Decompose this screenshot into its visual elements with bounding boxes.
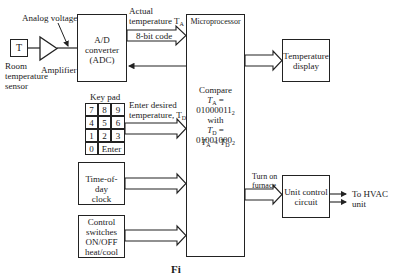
temperature-display-box: Temperature display <box>282 39 330 82</box>
keypad-title: Key pad <box>90 92 120 102</box>
control-switches-box: Control switches ON/OFF heat/cool <box>78 215 125 258</box>
amplifier-label: Amplifier <box>41 65 77 75</box>
control-switches-label: Control switches ON/OFF heat/cool <box>79 217 124 257</box>
key-6[interactable]: 6 <box>111 116 125 129</box>
key-0[interactable]: 0 <box>85 142 98 155</box>
compare-result: TA < TD <box>187 137 244 147</box>
to-hvac-label: To HVAC unit <box>352 189 388 209</box>
temperature-display-label: Temperature display <box>283 51 329 71</box>
amplifier-triangle <box>40 37 57 60</box>
key-4[interactable]: 4 <box>85 116 98 129</box>
key-5[interactable]: 5 <box>98 116 111 129</box>
key-8[interactable]: 8 <box>98 103 111 116</box>
key-9[interactable]: 9 <box>111 103 125 116</box>
time-of-day-clock-box: Time-of-day clock <box>78 162 125 205</box>
actual-temperature-label: Actual temperature TA <box>129 6 184 26</box>
key-2[interactable]: 2 <box>98 129 111 142</box>
adc-box: A/D converter (ADC) <box>77 14 127 82</box>
bus-8bit-label: 8-bit code <box>136 31 172 41</box>
unit-control-label: Unit control circuit <box>283 187 329 207</box>
microprocessor-title: Microprocessor <box>187 17 244 27</box>
turn-on-furnace-label: Turn on furnace <box>252 172 277 190</box>
temperature-sensor-box: T <box>10 39 28 57</box>
clock-label: Time-of-day clock <box>79 174 124 204</box>
figure-caption-partial: Fi <box>171 264 181 274</box>
keypad: 7 8 9 4 5 6 1 2 3 0 Enter <box>85 103 125 155</box>
enter-desired-label: Enter desired temperature, TD <box>129 100 186 120</box>
key-enter[interactable]: Enter <box>98 142 125 155</box>
compare-block: Compare TA = 010000112 with TD = 0100100… <box>187 85 244 145</box>
microprocessor-box: Microprocessor Compare TA = 010000112 wi… <box>186 14 245 257</box>
adc-label: A/D converter (ADC) <box>78 35 126 65</box>
key-3[interactable]: 3 <box>111 129 125 142</box>
sensor-symbol: T <box>11 43 27 53</box>
unit-control-circuit-box: Unit control circuit <box>282 175 330 218</box>
key-7[interactable]: 7 <box>85 103 98 116</box>
analog-voltage-label: Analog voltage <box>22 13 77 23</box>
key-1[interactable]: 1 <box>85 129 98 142</box>
